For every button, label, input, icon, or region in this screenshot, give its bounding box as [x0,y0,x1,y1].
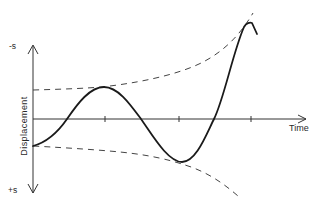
y-axis-label: Displacement [19,96,29,155]
x-axis-label: Time [289,123,309,133]
lower-envelope [33,146,238,196]
upper-envelope [33,13,253,90]
time-axis [33,115,306,123]
oscillation-diagram: -s +s Displacement Time [0,0,321,206]
y-top-label: -s [9,41,16,51]
displacement-curve [33,23,257,162]
y-bottom-label: +s [8,185,17,195]
